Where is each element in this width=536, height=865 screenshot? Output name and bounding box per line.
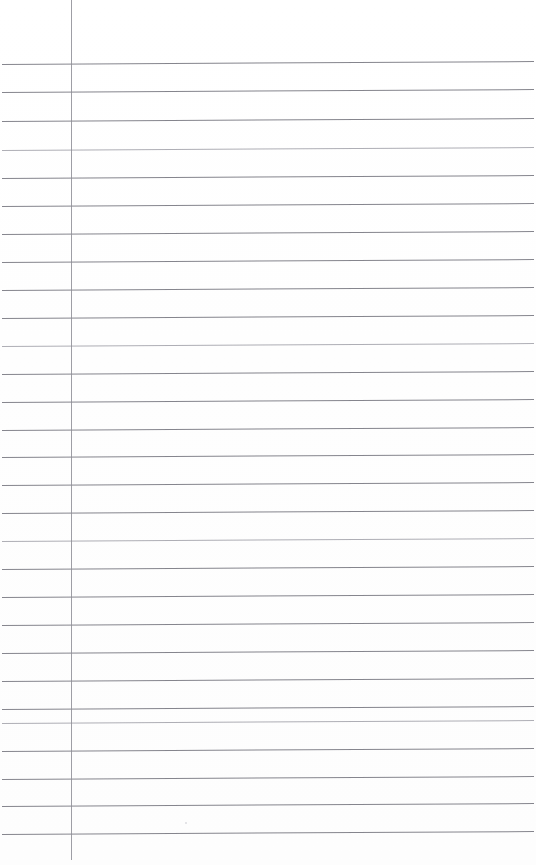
writing-area[interactable] bbox=[72, 0, 536, 865]
scanned-page bbox=[0, 0, 536, 865]
